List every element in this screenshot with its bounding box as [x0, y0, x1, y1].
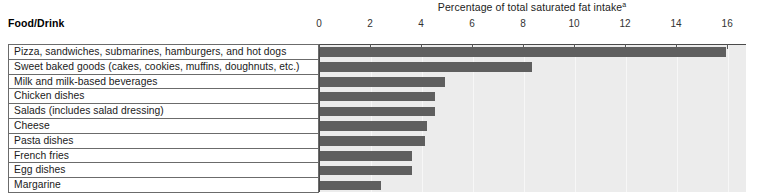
table-row: Cheese [9, 119, 318, 134]
x-axis-tick-label: 16 [722, 18, 733, 29]
bar-slot [320, 178, 746, 193]
x-axis-tick-label: 14 [671, 18, 682, 29]
x-axis-tick-label: 6 [469, 18, 475, 29]
category-label: Pasta dishes [14, 135, 74, 146]
table-row: Pizza, sandwiches, submarines, hamburger… [9, 45, 318, 60]
category-label: Margarine [14, 179, 61, 190]
bar-series [320, 45, 746, 192]
x-axis-tick-label: 10 [569, 18, 580, 29]
category-label: Chicken dishes [14, 90, 85, 101]
chart-title-text: Percentage of total saturated fat intake [438, 1, 622, 13]
bar [320, 181, 381, 191]
bar-slot [320, 60, 746, 75]
category-label: Cheese [14, 120, 50, 131]
chart-title: Percentage of total saturated fat intake… [318, 1, 746, 13]
category-label: French fries [14, 150, 69, 161]
bar-slot [320, 163, 746, 178]
x-axis: 0246810121416 [319, 18, 746, 44]
bar-slot [320, 45, 746, 60]
bar [320, 77, 445, 87]
bar [320, 166, 412, 176]
bar-slot [320, 75, 746, 90]
saturated-fat-bar-chart-figure: Percentage of total saturated fat intake… [0, 0, 757, 194]
bar-slot [320, 89, 746, 104]
bar [320, 121, 427, 131]
bar [320, 47, 726, 57]
category-label-table: Pizza, sandwiches, submarines, hamburger… [8, 44, 319, 193]
table-row: Pasta dishes [9, 134, 318, 149]
chart-title-footnote-marker: a [622, 1, 626, 8]
x-axis-tick-label: 4 [418, 18, 424, 29]
bar-slot [320, 134, 746, 149]
table-row: Sweet baked goods (cakes, cookies, muffi… [9, 60, 318, 75]
table-row: Milk and milk-based beverages [9, 75, 318, 90]
column-header-food-drink: Food/Drink [8, 17, 64, 29]
bar-slot [320, 119, 746, 134]
x-axis-tick-label: 8 [520, 18, 526, 29]
bar [320, 136, 425, 146]
x-axis-tick-label: 12 [620, 18, 631, 29]
category-label: Milk and milk-based beverages [14, 76, 157, 87]
category-label: Egg dishes [14, 164, 65, 175]
bar [320, 151, 412, 161]
x-axis-tick-label: 2 [367, 18, 373, 29]
table-row: Egg dishes [9, 163, 318, 178]
bar [320, 62, 532, 72]
x-axis-tick-label: 0 [316, 18, 322, 29]
category-label: Salads (includes salad dressing) [14, 105, 164, 116]
bar-slot [320, 149, 746, 164]
bar [320, 107, 435, 117]
table-row: Margarine [9, 178, 318, 193]
category-label: Sweet baked goods (cakes, cookies, muffi… [14, 61, 300, 72]
category-label: Pizza, sandwiches, submarines, hamburger… [14, 46, 286, 57]
bar [320, 92, 435, 102]
table-row: Chicken dishes [9, 89, 318, 104]
table-row: French fries [9, 149, 318, 164]
bar-slot [320, 104, 746, 119]
table-row: Salads (includes salad dressing) [9, 104, 318, 119]
